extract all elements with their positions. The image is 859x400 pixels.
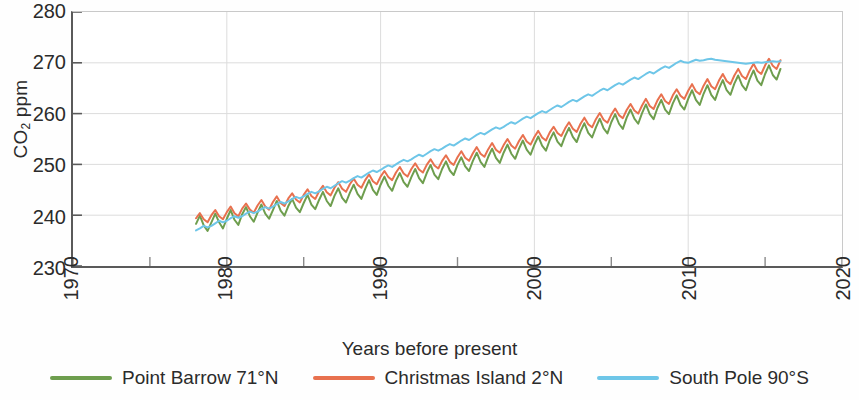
legend-item[interactable]: Point Barrow 71°N xyxy=(50,367,279,389)
chart-legend: Point Barrow 71°NChristmas Island 2°NSou… xyxy=(0,367,859,389)
legend-label: Christmas Island 2°N xyxy=(385,367,564,389)
co2-line-chart-figure: CO2 ppm 230240250260270280 1970198019902… xyxy=(0,0,859,400)
legend-item[interactable]: Christmas Island 2°N xyxy=(313,367,564,389)
x-tick-label: 1970 xyxy=(61,256,81,318)
x-tick-label: 2020 xyxy=(833,256,853,318)
legend-label: Point Barrow 71°N xyxy=(122,367,279,389)
x-tick-label: 1980 xyxy=(215,256,235,318)
x-tick-label: 1990 xyxy=(370,256,390,318)
x-tick-label: 2000 xyxy=(524,256,544,318)
legend-line-swatch xyxy=(597,376,659,380)
legend-line-swatch xyxy=(50,376,112,380)
legend-label: South Pole 90°S xyxy=(669,367,809,389)
legend-line-swatch xyxy=(313,376,375,380)
legend-item[interactable]: South Pole 90°S xyxy=(597,367,809,389)
x-tick-label: 2010 xyxy=(679,256,699,318)
x-axis-title: Years before present xyxy=(0,338,859,360)
